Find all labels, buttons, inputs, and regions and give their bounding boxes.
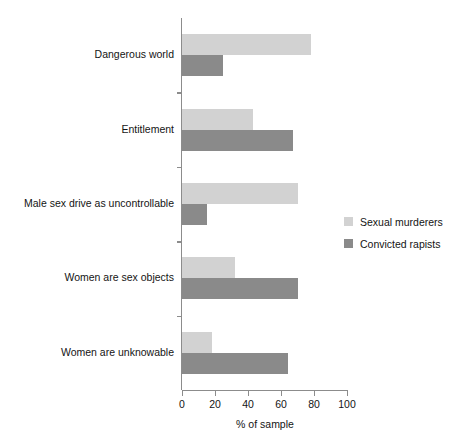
chart-legend: Sexual murderersConvicted rapists (344, 212, 443, 256)
legend-label: Convicted rapists (360, 238, 441, 250)
x-axis-tick (215, 391, 216, 396)
bar (182, 130, 293, 151)
x-axis-tick (347, 391, 348, 396)
bar-group (182, 109, 347, 151)
category-label: Women are sex objects (0, 271, 174, 283)
legend-item: Convicted rapists (344, 234, 443, 256)
legend-swatch-icon (344, 239, 353, 248)
bar-group (182, 183, 347, 225)
bar (182, 34, 311, 55)
x-axis-tick (281, 391, 282, 396)
category-label: Entitlement (0, 123, 174, 135)
x-axis-line (182, 390, 348, 391)
bar (182, 353, 288, 374)
legend-item: Sexual murderers (344, 212, 443, 234)
category-label: Male sex drive as uncontrollable (0, 197, 174, 209)
bar-group (182, 257, 347, 299)
x-axis-tick (182, 391, 183, 396)
legend-swatch-icon (344, 217, 353, 226)
legend-label: Sexual murderers (360, 216, 443, 228)
bar-group (182, 34, 347, 76)
bar (182, 204, 207, 225)
bar (182, 183, 298, 204)
plot-area (182, 18, 347, 390)
category-label: Dangerous world (0, 48, 174, 60)
bar (182, 332, 212, 353)
category-label: Women are unknowable (0, 346, 174, 358)
x-axis-tick (248, 391, 249, 396)
bar (182, 55, 223, 76)
x-axis-title: % of sample (182, 418, 348, 430)
bar (182, 278, 298, 299)
bar-chart: Dangerous worldEntitlementMale sex drive… (0, 0, 469, 444)
bar-group (182, 332, 347, 374)
x-axis-tick-label: 100 (327, 398, 367, 410)
bar (182, 257, 235, 278)
bar (182, 109, 253, 130)
x-axis-tick (314, 391, 315, 396)
